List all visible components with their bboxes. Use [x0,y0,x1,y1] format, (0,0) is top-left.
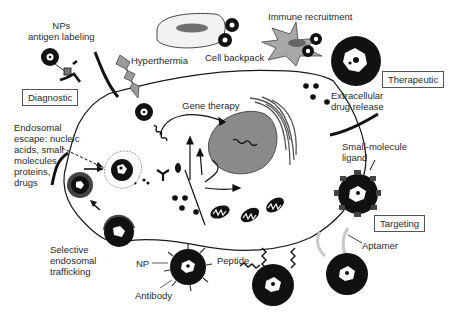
box-therapeutic: Therapeutic [382,71,444,88]
label-small-molecule-ligand: Small-molecule ligand [342,141,407,163]
label-cell-backpack: Cell backpack [205,52,264,63]
immune-cell [262,22,322,66]
label-nps-antigen-labeling: NPs antigen labeling [28,20,95,42]
box-diagnostic: Diagnostic [22,89,78,106]
label-immune-recruitment: Immune recruitment [268,11,352,22]
np-antigen-labeling [41,48,80,82]
arc-top-left [95,52,118,97]
label-peptide: Peptide [217,255,249,266]
np-antibody [152,243,212,291]
label-selective-endosomal-trafficking: Selective endosomal trafficking [50,244,96,277]
np-aptamer [318,228,368,295]
label-gene-therapy: Gene therapy [182,100,240,111]
label-aptamer: Aptamer [362,240,398,251]
label-extracellular-drug-release: Extracellular drug release [331,90,384,112]
np-therapeutic-large [331,36,381,86]
label-antibody: Antibody [135,290,172,301]
box-targeting: Targeting [374,215,425,232]
label-np: NP [136,258,149,269]
label-endosomal-escape: Endosomal escape: nucleic acids, small m… [14,122,79,188]
cell-backpack [157,13,239,47]
np-hyperthermia [135,103,153,121]
label-hyperthermia: Hyperthermia [131,55,188,66]
